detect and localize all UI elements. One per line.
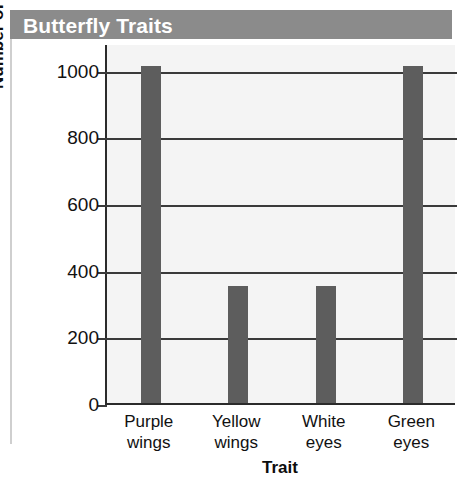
bar — [403, 66, 423, 403]
x-axis-category-label: Yellowwings — [188, 412, 284, 453]
x-axis-category-label: Greeneyes — [363, 412, 459, 453]
chart-title-band: Butterfly Traits — [10, 10, 452, 39]
x-axis-category-label-line: eyes — [276, 433, 372, 454]
x-axis-title: Trait — [105, 458, 455, 478]
x-axis-category-label-line: Purple — [101, 412, 197, 433]
y-axis-tick-label: 0 — [88, 394, 99, 416]
y-axis-tick-label: 600 — [67, 194, 99, 216]
x-axis-category-label-line: White — [276, 412, 372, 433]
y-axis-tick-label: 800 — [67, 127, 99, 149]
bar — [316, 286, 336, 403]
x-axis-category-label-line: Yellow — [188, 412, 284, 433]
x-axis-category-label-line: wings — [188, 433, 284, 454]
x-axis-category-label: Purplewings — [101, 412, 197, 453]
bar — [228, 286, 248, 403]
y-axis-tick — [98, 205, 107, 207]
y-axis-tick — [98, 338, 107, 340]
bar-chart-figure: Butterfly Traits Number of Butterflies T… — [0, 0, 462, 483]
x-axis-category-label-line: eyes — [363, 433, 459, 454]
y-axis-title: Number of Butterflies — [0, 0, 8, 112]
plot-area — [105, 45, 455, 405]
x-axis-category-label: Whiteeyes — [276, 412, 372, 453]
y-axis-tick-label: 400 — [67, 260, 99, 282]
y-axis-tick-label: 1000 — [57, 60, 99, 82]
bar — [141, 66, 161, 403]
y-axis-tick — [98, 72, 107, 74]
x-axis-category-label-line: Green — [363, 412, 459, 433]
x-axis-category-label-line: wings — [101, 433, 197, 454]
y-axis-tick-label: 200 — [67, 327, 99, 349]
chart-title: Butterfly Traits — [23, 14, 173, 38]
y-axis-tick — [98, 405, 107, 407]
y-axis-tick — [98, 138, 107, 140]
y-axis-tick — [98, 272, 107, 274]
